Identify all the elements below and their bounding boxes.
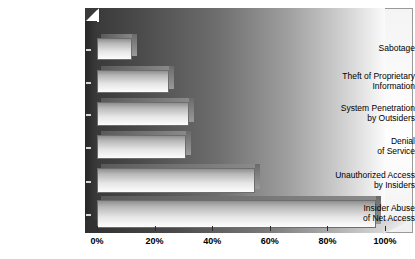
category-label-line: Information — [332, 81, 415, 91]
bar-side-face — [132, 34, 137, 56]
x-axis-tick-label: 20% — [135, 236, 175, 246]
category-label: Insider Abuseof Net Access — [332, 203, 415, 223]
y-axis-tick — [86, 214, 91, 216]
bar — [97, 38, 132, 60]
category-label: Sabotage — [332, 43, 415, 53]
bar-chart: SabotageTheft of ProprietaryInformationS… — [0, 0, 415, 259]
x-axis-tick-label: 40% — [192, 236, 232, 246]
bar-side-face — [186, 131, 191, 155]
y-axis-tick — [86, 181, 91, 183]
y-axis-tick — [86, 82, 91, 84]
bar-side-face — [255, 164, 260, 189]
x-axis-tick-label: 0% — [77, 236, 117, 246]
x-axis-tick — [270, 226, 271, 231]
category-label-line: Unauthorized Access — [332, 170, 415, 180]
x-axis-tick — [385, 226, 386, 231]
category-label-line: by Insiders — [332, 180, 415, 190]
x-axis-tick — [97, 226, 98, 231]
category-label-line: of Service — [332, 146, 415, 156]
category-label-line: Theft of Proprietary — [332, 71, 415, 81]
category-label-line: of Net Access — [332, 213, 415, 223]
x-axis-tick-label: 80% — [307, 236, 347, 246]
bar — [97, 70, 169, 93]
bar-side-face — [189, 98, 194, 122]
category-label-line: System Penetration — [332, 103, 415, 113]
category-label-line: Denial — [332, 136, 415, 146]
bar — [97, 168, 255, 193]
bar-side-face — [169, 66, 174, 89]
category-label-line: Sabotage — [332, 43, 415, 53]
category-label-line: by Outsiders — [332, 113, 415, 123]
x-axis-tick — [212, 226, 213, 231]
x-axis-tick — [327, 226, 328, 231]
category-label: Denialof Service — [332, 136, 415, 156]
x-axis-tick-label: 60% — [250, 236, 290, 246]
x-axis-tick — [155, 226, 156, 231]
category-label: Theft of ProprietaryInformation — [332, 71, 415, 91]
category-label-line: Insider Abuse — [332, 203, 415, 213]
y-axis-tick — [86, 49, 91, 51]
bar — [97, 102, 189, 126]
y-axis-tick — [86, 147, 91, 149]
bar — [97, 135, 186, 159]
category-label: System Penetrationby Outsiders — [332, 103, 415, 123]
x-axis-tick-label: 100% — [365, 236, 405, 246]
y-axis-tick — [86, 114, 91, 116]
category-label: Unauthorized Accessby Insiders — [332, 170, 415, 190]
